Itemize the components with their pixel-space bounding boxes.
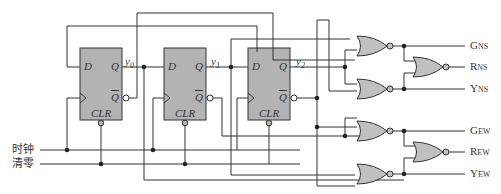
- ff0-qbar-label: Q: [111, 92, 119, 103]
- output-r-ns: RNS: [470, 61, 488, 72]
- output-r-ew: REW: [470, 146, 490, 157]
- circuit-diagram: [0, 0, 501, 194]
- clock-input-label: 时钟: [12, 144, 34, 155]
- ff1-d-label: D: [168, 61, 176, 72]
- ff1-output-label: y1: [211, 56, 220, 70]
- output-y-ns: YNS: [470, 83, 488, 94]
- output-g-ns: GNS: [470, 40, 488, 51]
- ff1-qbar-label: Q: [195, 92, 203, 103]
- ff2-q-label: Q: [279, 61, 287, 72]
- clear-input-label: 清零: [12, 158, 34, 169]
- ff0-q-label: Q: [111, 61, 119, 72]
- ff2-qbar-label: Q: [279, 92, 287, 103]
- output-y-ew: YEW: [470, 168, 490, 179]
- ff0-d-label: D: [84, 61, 92, 72]
- ff2-output-label: y2: [296, 56, 305, 70]
- ff0-clr-label: CLR: [91, 108, 111, 119]
- output-g-ew: GEW: [470, 125, 490, 136]
- ff1-q-label: Q: [195, 61, 203, 72]
- ff2-clr-label: CLR: [259, 108, 279, 119]
- ff0-output-label: y0: [125, 56, 134, 70]
- ff2-d-label: D: [252, 61, 260, 72]
- ff1-clr-label: CLR: [175, 108, 195, 119]
